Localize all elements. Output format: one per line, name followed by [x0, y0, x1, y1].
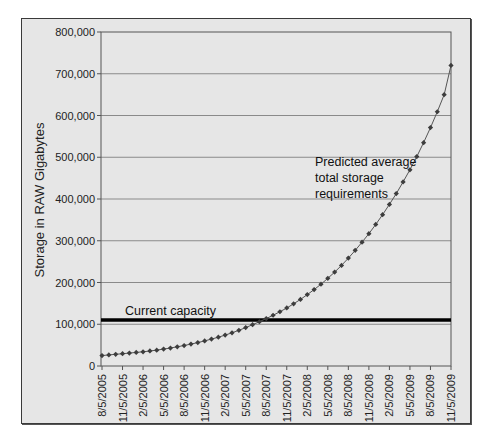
data-point-marker [127, 350, 132, 355]
data-point-marker [400, 179, 405, 184]
x-tick-label: 2/5/2007 [219, 374, 231, 417]
data-point-marker [134, 350, 139, 355]
x-tick-label: 11/5/2006 [199, 374, 211, 422]
data-point-marker [195, 340, 200, 345]
data-point-marker [154, 348, 159, 353]
y-tick-label: 600,000 [55, 110, 95, 122]
y-tick-label: 800,000 [55, 26, 95, 38]
data-point-marker [250, 322, 255, 327]
x-tick-label: 8/5/2006 [178, 374, 190, 417]
data-point-marker [448, 63, 453, 68]
x-tick-label: 11/5/2009 [445, 374, 457, 422]
x-tick-label: 5/5/2009 [404, 374, 416, 417]
x-tick-label: 8/5/2008 [342, 374, 354, 417]
x-axis-ticks: 8/5/200511/5/20052/5/20065/5/20068/5/200… [96, 366, 457, 422]
data-point-marker [229, 330, 234, 335]
data-point-marker [421, 140, 426, 145]
predicted-label-line2: total storage [315, 171, 384, 185]
data-point-marker [243, 325, 248, 330]
y-tick-label: 500,000 [55, 151, 95, 163]
x-tick-label: 5/5/2007 [240, 374, 252, 417]
y-tick-label: 100,000 [55, 318, 95, 330]
x-tick-label: 2/5/2009 [383, 374, 395, 417]
data-point-marker [291, 301, 296, 306]
x-tick-label: 11/5/2008 [363, 374, 375, 422]
current-capacity-label: Current capacity [125, 304, 217, 318]
x-tick-label: 8/5/2007 [260, 374, 272, 417]
x-tick-label: 11/5/2005 [117, 374, 129, 422]
y-axis-title: Storage in RAW Gigabytes [32, 122, 47, 277]
data-point-marker [223, 333, 228, 338]
y-tick-label: 400,000 [55, 193, 95, 205]
y-tick-label: 300,000 [55, 235, 95, 247]
data-point-marker [435, 109, 440, 114]
data-point-marker [270, 313, 275, 318]
x-tick-label: 5/5/2008 [322, 374, 334, 417]
x-tick-label: 2/5/2008 [301, 374, 313, 417]
data-point-marker [209, 336, 214, 341]
data-point-marker [202, 338, 207, 343]
x-tick-label: 11/5/2007 [281, 374, 293, 422]
y-axis-ticks: 0100,000200,000300,000400,000500,000600,… [55, 26, 101, 372]
data-point-marker [442, 92, 447, 97]
data-point-marker [113, 352, 118, 357]
data-point-marker [182, 343, 187, 348]
data-point-marker [161, 346, 166, 351]
y-tick-label: 200,000 [55, 277, 95, 289]
data-point-marker [140, 349, 145, 354]
y-tick-label: 700,000 [55, 68, 95, 80]
data-point-marker [147, 348, 152, 353]
predicted-label-line3: requirements [315, 187, 388, 201]
x-tick-label: 8/5/2005 [96, 374, 108, 417]
data-point-marker [216, 335, 221, 340]
data-point-marker [236, 328, 241, 333]
data-point-marker [188, 341, 193, 346]
storage-chart: 0100,000200,000300,000400,000500,000600,… [0, 0, 490, 446]
data-point-marker [284, 305, 289, 310]
x-tick-label: 2/5/2006 [137, 374, 149, 417]
predicted-label-line1: Predicted average [315, 155, 417, 169]
data-point-marker [99, 353, 104, 358]
data-point-marker [428, 125, 433, 130]
gridlines [101, 74, 451, 325]
data-point-marker [106, 352, 111, 357]
data-point-marker [277, 309, 282, 314]
data-point-marker [120, 351, 125, 356]
data-point-marker [175, 344, 180, 349]
data-point-marker [168, 345, 173, 350]
x-tick-label: 5/5/2006 [158, 374, 170, 417]
data-point-marker [394, 191, 399, 196]
x-tick-label: 8/5/2009 [424, 374, 436, 417]
y-tick-label: 0 [89, 360, 95, 372]
